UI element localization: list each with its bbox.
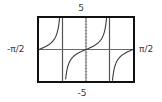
curve-branch (112, 50, 132, 81)
x-max-label: π/2 (139, 44, 153, 54)
tangent-graph (37, 16, 135, 83)
curve-branch (39, 18, 60, 49)
plot-area (37, 16, 135, 83)
x-min-label: -π/2 (7, 44, 24, 54)
y-max-label: 5 (78, 3, 84, 13)
y-min-label: -5 (78, 88, 87, 98)
